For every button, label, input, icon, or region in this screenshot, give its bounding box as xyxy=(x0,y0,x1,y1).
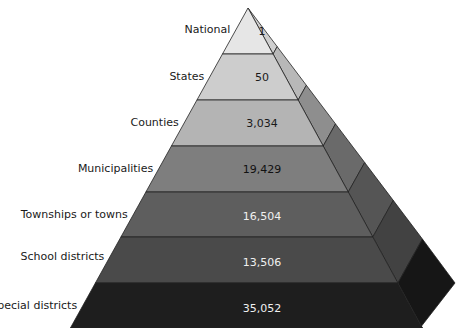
level-label-municipalities: Municipalities xyxy=(78,162,153,175)
pyramid-graphic xyxy=(0,0,461,328)
level-value-states: 50 xyxy=(255,71,269,84)
level-value-townships: 16,504 xyxy=(243,210,282,223)
level-label-counties: Counties xyxy=(130,116,178,129)
level-label-states: States xyxy=(169,70,204,83)
level-label-national: National xyxy=(185,23,231,36)
level-value-counties: 3,034 xyxy=(246,117,278,130)
level-label-school-districts: School districts xyxy=(21,250,105,263)
level-value-special-districts: 35,052 xyxy=(243,302,282,315)
level-value-school-districts: 13,506 xyxy=(243,256,282,269)
level-label-special-districts: Special districts xyxy=(0,299,77,312)
level-value-municipalities: 19,429 xyxy=(243,163,282,176)
level-value-national: 1 xyxy=(259,25,266,38)
level-label-townships: Townships or towns xyxy=(21,208,128,221)
